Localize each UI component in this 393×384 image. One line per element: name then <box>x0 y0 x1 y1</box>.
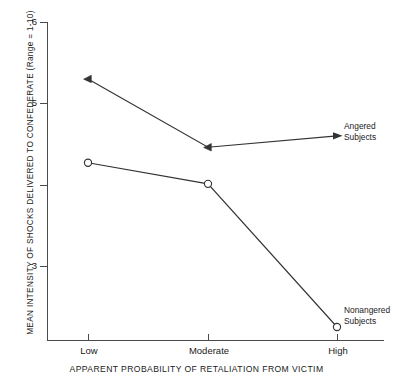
data-point-marker <box>204 180 211 187</box>
series-label-angered-line1: Angered <box>344 121 376 132</box>
plot-area <box>0 0 393 384</box>
series-label-angered: Angered Subjects <box>344 121 376 142</box>
data-point-marker <box>333 323 340 330</box>
annotation-arrows <box>333 132 343 139</box>
data-point-marker <box>204 144 212 151</box>
series-angered-subjects <box>84 75 337 151</box>
data-point-marker <box>84 75 92 82</box>
data-point-marker <box>84 159 91 166</box>
series-label-angered-line2: Subjects <box>344 132 376 143</box>
series-arrow-head <box>333 132 343 139</box>
series-line <box>88 163 337 327</box>
chart-figure: MEAN INTENSITY OF SHOCKS DELIVERED TO CO… <box>0 0 393 384</box>
series-label-nonangered-line1: Nonangered <box>344 305 390 316</box>
series-label-nonangered: Nonangered Subjects <box>344 305 390 326</box>
series-label-nonangered-line2: Subjects <box>344 316 390 327</box>
series-line <box>88 79 337 147</box>
series-nonangered-subjects <box>84 159 340 330</box>
